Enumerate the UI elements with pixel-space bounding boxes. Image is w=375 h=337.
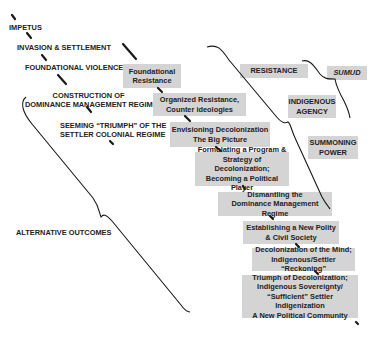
dash-mark	[185, 116, 190, 121]
dash-mark	[216, 147, 221, 151]
dash-mark	[356, 322, 358, 324]
dash-mark	[123, 44, 136, 59]
dash-mark	[58, 75, 66, 84]
dash-mark	[42, 55, 46, 60]
dash-mark	[12, 15, 15, 19]
sumud-brace	[302, 61, 350, 118]
dash-mark	[27, 33, 31, 38]
dash-mark	[87, 107, 91, 112]
dash-mark	[158, 88, 162, 92]
dash-mark	[296, 244, 299, 247]
agency-brace	[207, 46, 330, 209]
dash-mark	[315, 271, 318, 274]
dash-mark	[270, 216, 273, 219]
outcomes-brace	[23, 97, 190, 312]
dash-mark	[243, 186, 245, 189]
dash-mark	[110, 141, 113, 144]
connector-lines	[0, 0, 375, 337]
